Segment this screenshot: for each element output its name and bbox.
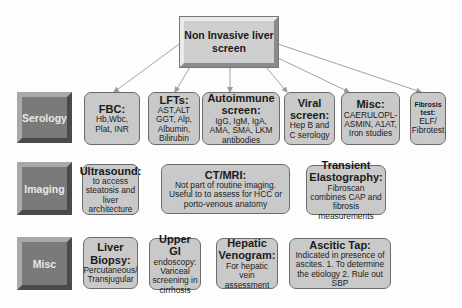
node-transient-elastography: Transient Elastography: Fibroscan combin… xyxy=(306,165,386,215)
node-liver-biopsy: Liver Biopsy: Percutaneous/ Transjugular xyxy=(83,237,138,289)
row-label-imaging: Imaging xyxy=(17,162,72,215)
node-title: Hepatic Venogram: xyxy=(219,237,276,262)
node-detail: Fibroscan combines CAP and fibrosis meas… xyxy=(309,184,383,222)
row-label-text: Serology xyxy=(22,112,67,124)
node-autoimmune: Autoimmune screen: IgG, IgM, IgA, AMA, S… xyxy=(202,92,280,145)
node-detail: For hepatic vein assessment xyxy=(219,262,275,290)
row-label-misc: Misc xyxy=(17,237,72,290)
root-title: Non Invasive liver screen xyxy=(184,29,274,55)
node-detail: Indicated in presence of ascites. 1. To … xyxy=(292,251,388,289)
row-label-text: Misc xyxy=(33,258,56,270)
node-title: Fibrosis test: xyxy=(413,101,443,117)
node-fbc: FBC: Hb,Wbc, Plat, INR xyxy=(84,92,140,145)
root-node: Non Invasive liver screen xyxy=(180,17,278,67)
node-detail: Percutaneous/ Transjugular xyxy=(84,266,138,285)
node-hepatic-venogram: Hepatic Venogram: For hepatic vein asses… xyxy=(216,238,278,289)
node-detail: AST,ALT GGT, Alp, Albumin, Bilirubin xyxy=(151,106,197,144)
node-lfts: LFTs: AST,ALT GGT, Alp, Albumin, Bilirub… xyxy=(148,92,200,145)
node-title: LFTs: xyxy=(159,94,188,106)
node-upper-gi: Upper GI endoscopy: Variceal screening i… xyxy=(149,238,201,290)
node-detail: Hep B and C serology xyxy=(287,121,332,140)
node-detail: endoscopy: Variceal screening in cirrhos… xyxy=(152,258,198,296)
node-detail: to access steatosis and liver architectu… xyxy=(85,177,136,215)
node-ultrasound: Ultrasound: to access steatosis and live… xyxy=(82,164,139,215)
node-ct-mri: CT/MRI: Not part of routine imaging. Use… xyxy=(161,164,290,214)
row-label-text: Imaging xyxy=(24,183,64,195)
row-label-serology: Serology xyxy=(17,92,72,143)
node-fibrosis-test: Fibrosis test: ELF/ Fibrotest xyxy=(410,92,446,145)
node-title: Ascitic Tap: xyxy=(309,239,371,251)
node-detail: ELF/ Fibrotest xyxy=(412,117,445,136)
node-detail: Not part of routine imaging. Useful to t… xyxy=(164,181,287,209)
node-detail: Hb,Wbc, Plat, INR xyxy=(87,115,137,134)
node-title: Upper GI xyxy=(152,233,198,258)
node-title: Autoimmune screen: xyxy=(205,92,277,117)
node-detail: IgG, IgM, IgA, AMA, SMA, LKM antibodies xyxy=(205,117,277,145)
node-title: Transient Elastography: xyxy=(309,159,383,184)
node-misc-serology: Misc: CAERULOPL-ASMIN, A1AT, Iron studie… xyxy=(341,92,400,145)
node-title: Viral screen: xyxy=(287,97,332,122)
node-title: Ultrasound: xyxy=(80,165,142,177)
node-detail: CAERULOPL-ASMIN, A1AT, Iron studies xyxy=(344,111,398,139)
node-ascitic-tap: Ascitic Tap: Indicated in presence of as… xyxy=(289,238,391,289)
node-viral: Viral screen: Hep B and C serology xyxy=(284,92,335,145)
node-title: Liver Biopsy: xyxy=(86,241,135,266)
node-title: Misc: xyxy=(356,98,384,110)
